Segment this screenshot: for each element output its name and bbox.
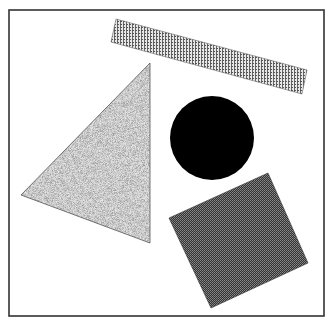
diagram-canvas: Geometric shapes bbox=[0, 0, 332, 321]
shapes-svg bbox=[0, 0, 332, 321]
circle-shape bbox=[170, 96, 254, 180]
